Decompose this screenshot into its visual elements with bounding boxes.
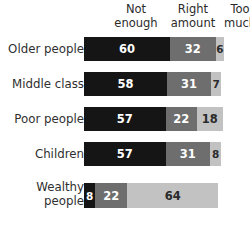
segment-value-label: 31 bbox=[181, 77, 197, 91]
chart-row: Wealthy people82264 bbox=[0, 177, 250, 211]
bar-segment: 64 bbox=[127, 183, 219, 208]
row-label: Wealthy people bbox=[0, 177, 84, 211]
chart-row: Older people60326 bbox=[0, 37, 250, 61]
segment-value-label: 8 bbox=[86, 190, 93, 202]
bar-segment: 58 bbox=[84, 72, 167, 96]
bar-segment: 6 bbox=[216, 37, 225, 61]
segment-value-label: 32 bbox=[185, 42, 201, 56]
segment-value-label: 64 bbox=[165, 189, 181, 203]
stacked-bar: 57318 bbox=[84, 142, 221, 166]
row-label: Children bbox=[0, 142, 84, 166]
bar-segment: 31 bbox=[166, 142, 210, 166]
chart-column-headers: Not enough Right amount Too much bbox=[84, 3, 250, 33]
bar-segment: 60 bbox=[84, 37, 170, 61]
segment-value-label: 31 bbox=[180, 147, 196, 161]
segment-value-label: 7 bbox=[213, 78, 220, 90]
segment-value-label: 8 bbox=[212, 148, 219, 160]
segment-value-label: 57 bbox=[117, 147, 133, 161]
row-label: Poor people bbox=[0, 107, 84, 131]
segment-value-label: 18 bbox=[202, 112, 218, 126]
bar-segment: 8 bbox=[210, 142, 221, 166]
stacked-bar: 572218 bbox=[84, 107, 223, 131]
stacked-bar: 82264 bbox=[84, 183, 218, 208]
stacked-bar: 58317 bbox=[84, 72, 221, 96]
chart-row: Children57318 bbox=[0, 142, 250, 166]
bar-segment: 18 bbox=[197, 107, 223, 131]
stacked-bar-chart: Not enough Right amount Too much Older p… bbox=[0, 0, 250, 228]
chart-row: Middle class58317 bbox=[0, 72, 250, 96]
chart-row: Poor people572218 bbox=[0, 107, 250, 131]
segment-value-label: 58 bbox=[117, 77, 133, 91]
bar-segment: 22 bbox=[166, 107, 197, 131]
row-label: Middle class bbox=[0, 72, 84, 96]
bar-segment: 32 bbox=[170, 37, 216, 61]
column-header-not-enough: Not enough bbox=[106, 3, 166, 30]
column-header-right-amount: Right amount bbox=[162, 3, 224, 30]
segment-value-label: 57 bbox=[117, 112, 133, 126]
bar-segment: 57 bbox=[84, 142, 166, 166]
segment-value-label: 60 bbox=[119, 42, 135, 56]
stacked-bar: 60326 bbox=[84, 37, 224, 61]
column-header-too-much: Too much bbox=[218, 3, 250, 30]
segment-value-label: 6 bbox=[216, 43, 223, 55]
segment-value-label: 22 bbox=[103, 189, 119, 203]
bar-segment: 31 bbox=[167, 72, 211, 96]
bar-segment: 57 bbox=[84, 107, 166, 131]
segment-value-label: 22 bbox=[173, 112, 189, 126]
chart-rows: Older people60326Middle class58317Poor p… bbox=[0, 37, 250, 222]
bar-segment: 8 bbox=[84, 183, 95, 208]
bar-segment: 22 bbox=[95, 183, 126, 208]
row-label: Older people bbox=[0, 37, 84, 61]
bar-segment: 7 bbox=[211, 72, 221, 96]
